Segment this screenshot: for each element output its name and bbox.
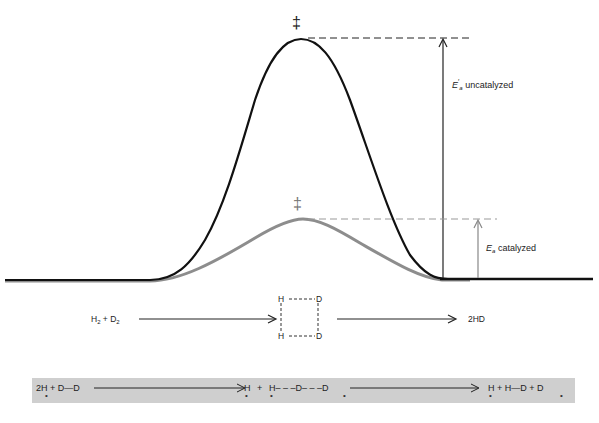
- mechanism-step2-chain: H– – –D– – –D: [269, 383, 329, 393]
- mechanism-step2-plus: +: [257, 383, 262, 393]
- ts-catalyzed-label: ‡: [293, 195, 302, 213]
- catalyzed-mechanism-band: 2H + D—D • H • + H– – –D– – –D • • H + H…: [32, 378, 575, 403]
- ts-uncatalyzed-label: ‡: [292, 14, 301, 32]
- ea-uncatalyzed-label: E′a uncatalyzed: [452, 78, 513, 91]
- mechanism-step1: 2H + D—D: [36, 383, 80, 393]
- complex-h-bottom-left: H: [278, 331, 284, 341]
- reactants-label: H2 + D2: [91, 314, 120, 325]
- complex-d-top-right: D: [316, 294, 322, 304]
- catalyzed-curve: [5, 219, 470, 281]
- complex-d-bottom-right: D: [316, 331, 322, 341]
- complex-h-top-left: H: [278, 294, 284, 304]
- ea-catalyzed-label: Ea catalyzed: [486, 243, 536, 254]
- product-label: 2HD: [468, 314, 485, 324]
- mechanism-step3: H + H—D + D: [488, 383, 544, 393]
